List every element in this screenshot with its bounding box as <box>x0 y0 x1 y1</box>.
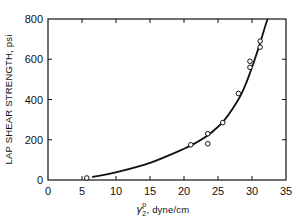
y-axis-label: LAP SHEAR STRENGTH, psi <box>3 34 14 164</box>
data-point <box>258 39 263 44</box>
y-tick-label: 800 <box>25 13 43 25</box>
data-point <box>84 176 89 181</box>
x-tick-label: 0 <box>45 185 51 197</box>
x-tick-label: 15 <box>144 185 156 197</box>
data-point <box>220 120 225 125</box>
x-tick-label: 5 <box>79 185 85 197</box>
axis-ticks: 051015202530350200400600800 <box>25 13 292 197</box>
x-axis-label: γ2p, dyne/cm <box>137 201 190 217</box>
data-point <box>258 45 263 50</box>
x-tick-label: 35 <box>280 185 292 197</box>
svg-text:LAP SHEAR STRENGTH, psi: LAP SHEAR STRENGTH, psi <box>3 34 14 164</box>
svg-text:γ2p, dyne/cm: γ2p, dyne/cm <box>137 201 190 217</box>
data-points <box>84 39 262 180</box>
data-point <box>206 131 211 136</box>
x-tick-label: 30 <box>246 185 258 197</box>
data-point <box>248 59 253 64</box>
x-tick-label: 10 <box>110 185 122 197</box>
data-point <box>248 65 253 70</box>
chart: LAP SHEAR STRENGTH, psi γ2p, dyne/cm 051… <box>0 0 300 223</box>
fitted-curve <box>92 19 267 177</box>
y-tick-label: 0 <box>37 174 43 186</box>
y-tick-label: 200 <box>25 134 43 146</box>
data-point <box>236 91 241 96</box>
data-point <box>206 141 211 146</box>
y-tick-label: 400 <box>25 94 43 106</box>
x-tick-label: 25 <box>212 185 224 197</box>
data-point <box>189 142 194 147</box>
x-tick-label: 20 <box>178 185 190 197</box>
y-tick-label: 600 <box>25 53 43 65</box>
